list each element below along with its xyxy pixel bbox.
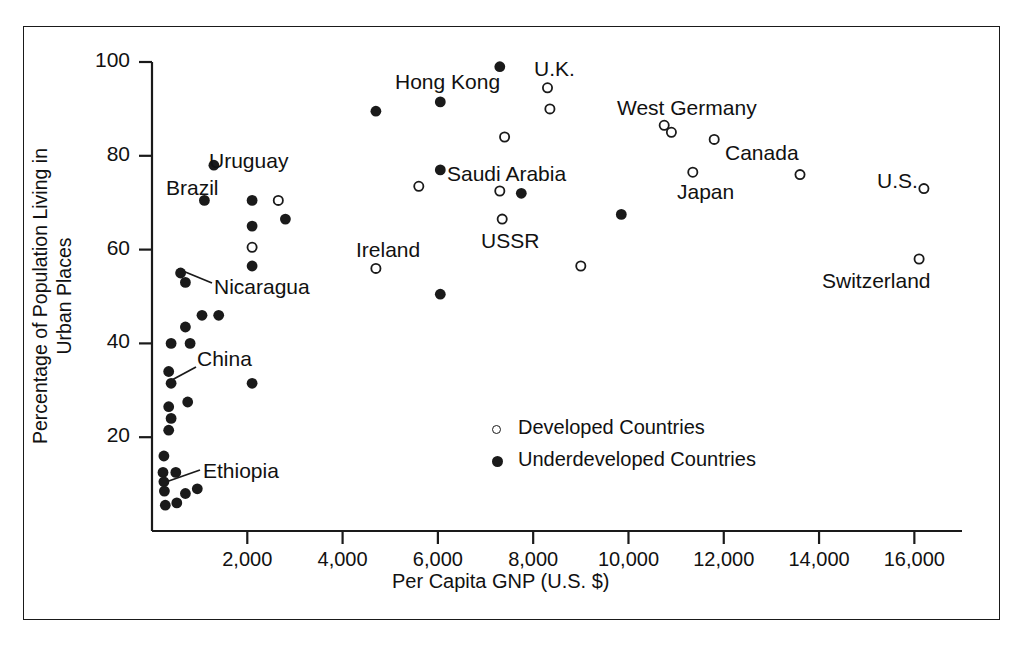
data-point-developed	[274, 196, 283, 205]
data-point-underdeveloped	[159, 486, 170, 497]
point-annotation-label: Saudi Arabia	[447, 162, 566, 186]
x-tick-label: 10,000	[573, 548, 683, 571]
legend-filled-circle-icon	[492, 456, 503, 467]
data-point-underdeveloped	[163, 366, 174, 377]
x-tick-label: 4,000	[288, 548, 398, 571]
x-axis-ticks	[247, 531, 914, 544]
data-point-underdeveloped	[197, 310, 208, 321]
y-axis-ticks	[139, 62, 152, 437]
point-annotation-label: Hong Kong	[395, 70, 500, 94]
point-annotation-label: Uruguay	[209, 149, 288, 173]
point-annotation-label: China	[197, 347, 252, 371]
data-point-underdeveloped	[171, 498, 182, 509]
point-annotation-label: Ireland	[356, 238, 420, 262]
data-point-developed	[498, 215, 507, 224]
data-point-underdeveloped	[192, 483, 203, 494]
data-point-underdeveloped	[516, 188, 527, 199]
data-point-underdeveloped	[159, 451, 170, 462]
data-point-developed	[500, 132, 509, 141]
point-annotation-label: Nicaragua	[214, 275, 310, 299]
x-axis-title: Per Capita GNP (U.S. $)	[392, 570, 609, 593]
point-annotation-label: Brazil	[166, 176, 219, 200]
y-axis-title: Percentage of Population Living in Urban…	[28, 126, 76, 466]
data-point-underdeveloped	[247, 221, 258, 232]
point-annotation-label: U.S.	[877, 169, 918, 193]
data-point-underdeveloped	[435, 97, 446, 108]
x-tick-label: 6,000	[383, 548, 493, 571]
data-point-underdeveloped	[371, 106, 382, 117]
data-point-underdeveloped	[163, 425, 174, 436]
data-point-underdeveloped	[247, 378, 258, 389]
x-tick-label: 2,000	[192, 548, 302, 571]
data-point-developed	[919, 184, 928, 193]
data-point-underdeveloped	[180, 277, 191, 288]
data-point-developed	[543, 83, 552, 92]
data-point-developed	[371, 264, 380, 273]
data-point-developed	[710, 135, 719, 144]
point-annotation-label: USSR	[481, 229, 539, 253]
data-point-underdeveloped	[435, 289, 446, 300]
data-point-underdeveloped	[247, 195, 258, 206]
data-point-developed	[795, 170, 804, 179]
point-annotation-label: U.K.	[534, 57, 575, 81]
legend-label: Underdeveloped Countries	[518, 448, 756, 471]
data-point-underdeveloped	[166, 413, 177, 424]
data-point-underdeveloped	[280, 214, 291, 225]
data-point-underdeveloped	[616, 209, 627, 220]
x-tick-label: 14,000	[764, 548, 874, 571]
point-annotation-label: Canada	[725, 141, 799, 165]
data-point-underdeveloped	[185, 338, 196, 349]
data-point-developed	[688, 168, 697, 177]
data-point-underdeveloped	[160, 500, 171, 511]
data-point-underdeveloped	[180, 322, 191, 333]
data-point-underdeveloped	[182, 397, 193, 408]
y-tick-label: 100	[58, 48, 130, 72]
data-point-developed	[248, 243, 257, 252]
legend-open-circle-icon	[492, 425, 501, 434]
data-point-developed	[414, 182, 423, 191]
data-point-underdeveloped	[170, 467, 181, 478]
data-point-developed	[667, 128, 676, 137]
x-tick-label: 12,000	[669, 548, 779, 571]
legend-label: Developed Countries	[518, 416, 705, 439]
x-tick-label: 16,000	[859, 548, 969, 571]
data-point-underdeveloped	[247, 261, 258, 272]
data-point-underdeveloped	[180, 488, 191, 499]
data-point-developed	[915, 254, 924, 263]
figure-page: 204060801002,0004,0006,0008,00010,00012,…	[0, 0, 1014, 657]
data-point-developed	[576, 261, 585, 270]
data-point-underdeveloped	[175, 268, 186, 279]
data-point-underdeveloped	[166, 378, 177, 389]
data-point-underdeveloped	[435, 165, 446, 176]
data-point-underdeveloped	[213, 310, 224, 321]
data-point-underdeveloped	[158, 467, 169, 478]
data-point-developed	[495, 186, 504, 195]
data-point-underdeveloped	[163, 401, 174, 412]
point-annotation-label: Ethiopia	[203, 459, 279, 483]
data-point-underdeveloped	[166, 338, 177, 349]
data-point-underdeveloped	[159, 476, 170, 487]
data-point-developed	[545, 104, 554, 113]
point-annotation-label: Japan	[677, 180, 734, 204]
point-annotation-label: West Germany	[617, 96, 757, 120]
point-annotation-label: Switzerland	[822, 269, 931, 293]
x-tick-label: 8,000	[478, 548, 588, 571]
series-developed-countries-points	[248, 83, 929, 273]
